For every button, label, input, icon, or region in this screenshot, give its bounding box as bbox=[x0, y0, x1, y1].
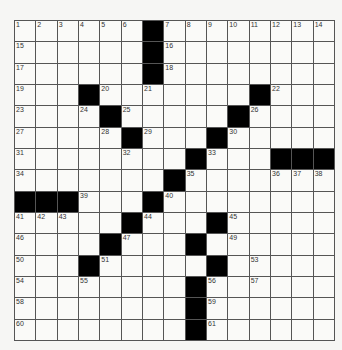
crossword-cell[interactable] bbox=[228, 277, 248, 297]
crossword-cell[interactable] bbox=[250, 234, 270, 254]
crossword-cell[interactable] bbox=[271, 298, 291, 318]
crossword-cell[interactable]: 9 bbox=[207, 21, 227, 41]
crossword-cell[interactable] bbox=[79, 128, 99, 148]
crossword-cell[interactable] bbox=[292, 85, 312, 105]
crossword-cell[interactable] bbox=[143, 170, 163, 190]
crossword-cell[interactable]: 47 bbox=[122, 234, 142, 254]
crossword-cell[interactable] bbox=[122, 256, 142, 276]
crossword-cell[interactable] bbox=[250, 320, 270, 340]
crossword-cell[interactable]: 51 bbox=[100, 256, 120, 276]
crossword-cell[interactable]: 42 bbox=[36, 213, 56, 233]
crossword-cell[interactable]: 23 bbox=[15, 106, 35, 126]
crossword-cell[interactable]: 18 bbox=[164, 64, 184, 84]
crossword-cell[interactable]: 55 bbox=[79, 277, 99, 297]
crossword-cell[interactable] bbox=[36, 256, 56, 276]
crossword-cell[interactable] bbox=[58, 64, 78, 84]
crossword-cell[interactable] bbox=[292, 128, 312, 148]
crossword-cell[interactable]: 46 bbox=[15, 234, 35, 254]
crossword-cell[interactable]: 50 bbox=[15, 256, 35, 276]
crossword-cell[interactable]: 32 bbox=[122, 149, 142, 169]
crossword-cell[interactable] bbox=[58, 320, 78, 340]
crossword-cell[interactable] bbox=[36, 149, 56, 169]
crossword-cell[interactable] bbox=[314, 234, 334, 254]
crossword-cell[interactable]: 43 bbox=[58, 213, 78, 233]
crossword-cell[interactable] bbox=[250, 64, 270, 84]
crossword-cell[interactable]: 45 bbox=[228, 213, 248, 233]
crossword-cell[interactable]: 13 bbox=[292, 21, 312, 41]
crossword-cell[interactable] bbox=[164, 277, 184, 297]
crossword-cell[interactable] bbox=[228, 320, 248, 340]
crossword-cell[interactable] bbox=[271, 42, 291, 62]
crossword-cell[interactable]: 27 bbox=[15, 128, 35, 148]
crossword-cell[interactable] bbox=[79, 42, 99, 62]
crossword-cell[interactable] bbox=[207, 192, 227, 212]
crossword-cell[interactable] bbox=[100, 64, 120, 84]
crossword-cell[interactable]: 21 bbox=[143, 85, 163, 105]
crossword-cell[interactable] bbox=[79, 170, 99, 190]
crossword-cell[interactable]: 37 bbox=[292, 170, 312, 190]
crossword-cell[interactable]: 24 bbox=[79, 106, 99, 126]
crossword-cell[interactable]: 22 bbox=[271, 85, 291, 105]
crossword-cell[interactable] bbox=[143, 320, 163, 340]
crossword-cell[interactable] bbox=[228, 256, 248, 276]
crossword-cell[interactable] bbox=[122, 320, 142, 340]
crossword-cell[interactable] bbox=[36, 85, 56, 105]
crossword-cell[interactable] bbox=[314, 256, 334, 276]
crossword-cell[interactable]: 8 bbox=[186, 21, 206, 41]
crossword-cell[interactable]: 44 bbox=[143, 213, 163, 233]
crossword-cell[interactable] bbox=[228, 149, 248, 169]
crossword-cell[interactable] bbox=[314, 277, 334, 297]
crossword-cell[interactable]: 17 bbox=[15, 64, 35, 84]
crossword-cell[interactable] bbox=[100, 192, 120, 212]
crossword-cell[interactable]: 57 bbox=[250, 277, 270, 297]
crossword-cell[interactable] bbox=[186, 128, 206, 148]
crossword-cell[interactable]: 39 bbox=[79, 192, 99, 212]
crossword-cell[interactable]: 41 bbox=[15, 213, 35, 233]
crossword-cell[interactable] bbox=[36, 234, 56, 254]
crossword-cell[interactable] bbox=[271, 64, 291, 84]
crossword-cell[interactable] bbox=[164, 85, 184, 105]
crossword-cell[interactable] bbox=[100, 277, 120, 297]
crossword-cell[interactable]: 11 bbox=[250, 21, 270, 41]
crossword-cell[interactable]: 26 bbox=[250, 106, 270, 126]
crossword-cell[interactable] bbox=[164, 128, 184, 148]
crossword-cell[interactable]: 56 bbox=[207, 277, 227, 297]
crossword-cell[interactable] bbox=[58, 128, 78, 148]
crossword-cell[interactable] bbox=[292, 106, 312, 126]
crossword-cell[interactable] bbox=[143, 277, 163, 297]
crossword-cell[interactable] bbox=[186, 42, 206, 62]
crossword-cell[interactable] bbox=[271, 192, 291, 212]
crossword-cell[interactable]: 38 bbox=[314, 170, 334, 190]
crossword-cell[interactable] bbox=[100, 149, 120, 169]
crossword-cell[interactable]: 31 bbox=[15, 149, 35, 169]
crossword-cell[interactable]: 58 bbox=[15, 298, 35, 318]
crossword-cell[interactable] bbox=[271, 320, 291, 340]
crossword-cell[interactable]: 3 bbox=[58, 21, 78, 41]
crossword-cell[interactable] bbox=[186, 106, 206, 126]
crossword-cell[interactable] bbox=[186, 213, 206, 233]
crossword-cell[interactable] bbox=[122, 42, 142, 62]
crossword-cell[interactable]: 25 bbox=[122, 106, 142, 126]
crossword-cell[interactable] bbox=[250, 192, 270, 212]
crossword-cell[interactable] bbox=[58, 42, 78, 62]
crossword-cell[interactable] bbox=[143, 256, 163, 276]
crossword-cell[interactable]: 20 bbox=[100, 85, 120, 105]
crossword-cell[interactable]: 12 bbox=[271, 21, 291, 41]
crossword-cell[interactable] bbox=[271, 256, 291, 276]
crossword-cell[interactable] bbox=[79, 320, 99, 340]
crossword-cell[interactable]: 49 bbox=[228, 234, 248, 254]
crossword-cell[interactable] bbox=[143, 298, 163, 318]
crossword-cell[interactable] bbox=[271, 128, 291, 148]
crossword-cell[interactable]: 19 bbox=[15, 85, 35, 105]
crossword-cell[interactable] bbox=[143, 149, 163, 169]
crossword-cell[interactable] bbox=[314, 213, 334, 233]
crossword-cell[interactable]: 60 bbox=[15, 320, 35, 340]
crossword-cell[interactable] bbox=[58, 85, 78, 105]
crossword-cell[interactable]: 10 bbox=[228, 21, 248, 41]
crossword-cell[interactable] bbox=[79, 298, 99, 318]
crossword-cell[interactable] bbox=[228, 192, 248, 212]
crossword-cell[interactable] bbox=[250, 213, 270, 233]
crossword-cell[interactable] bbox=[186, 85, 206, 105]
crossword-cell[interactable] bbox=[250, 128, 270, 148]
crossword-cell[interactable] bbox=[314, 106, 334, 126]
